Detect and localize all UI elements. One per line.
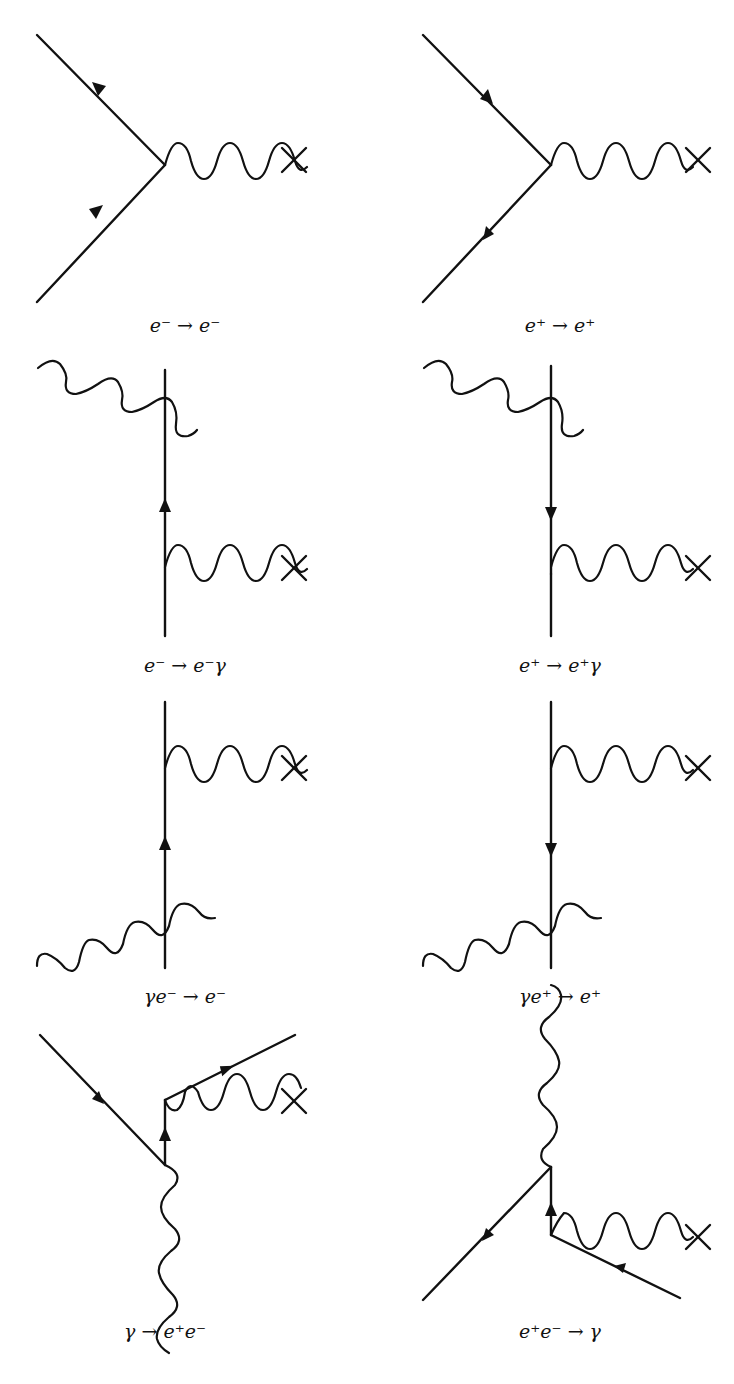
- external-field-cross-icon: [686, 148, 710, 172]
- external-field-cross-icon: [282, 1089, 306, 1113]
- arrow-icon: [482, 1228, 494, 1241]
- external-field-cross-icon: [686, 1225, 710, 1249]
- arrow-icon: [159, 836, 171, 850]
- diagram-caption: γe⁺ → e⁺: [519, 985, 601, 1007]
- diagram-gamma-to-e-plus-e-minus: [40, 1035, 306, 1353]
- external-field-cross-icon: [686, 556, 710, 580]
- diagram-e-minus-to-e-minus-gamma: [38, 361, 307, 636]
- diagram-e-minus-to-e-minus: [37, 35, 307, 302]
- arrow-icon: [159, 1127, 171, 1141]
- diagram-gamma-e-plus-to-e-plus: [423, 702, 710, 971]
- diagram-e-plus-to-e-plus-gamma: [424, 361, 710, 636]
- incoming-photon-line: [423, 904, 601, 971]
- diagram-e-plus-to-e-plus: [423, 35, 710, 302]
- positron-line: [40, 1035, 165, 1165]
- feynman-diagram-grid: [0, 0, 734, 1384]
- arrow-icon: [545, 507, 557, 521]
- photon-line: [165, 143, 307, 179]
- emitted-photon-line: [424, 361, 583, 436]
- diagram-caption: e⁺ → e⁺: [525, 314, 596, 336]
- arrow-icon: [545, 1202, 557, 1216]
- emitted-photon-line: [38, 361, 197, 436]
- arrow-icon: [89, 205, 103, 219]
- diagram-caption: e⁺e⁻ → γ: [519, 1320, 601, 1342]
- external-field-cross-icon: [686, 756, 710, 780]
- diagram-caption: e⁻ → e⁻γ: [144, 654, 226, 676]
- diagram-caption: e⁻ → e⁻: [150, 314, 221, 336]
- diagram-e-plus-e-minus-to-gamma: [423, 985, 710, 1300]
- photon-line: [551, 1213, 693, 1249]
- incoming-electron-line: [37, 165, 165, 302]
- arrow-icon: [545, 843, 557, 857]
- incoming-photon-line: [37, 904, 215, 971]
- photon-line: [551, 545, 693, 581]
- external-field-cross-icon: [282, 148, 306, 172]
- outgoing-electron-line: [37, 35, 165, 165]
- diagram-caption: e⁺ → e⁺γ: [519, 654, 601, 676]
- diagram-caption: γ → e⁺e⁻: [124, 1320, 206, 1342]
- arrow-icon: [92, 1091, 104, 1104]
- outgoing-photon-line: [539, 985, 561, 1167]
- diagram-gamma-e-minus-to-e-minus: [37, 702, 307, 971]
- photon-line: [551, 746, 693, 782]
- arrow-icon: [159, 498, 171, 512]
- diagram-caption: γe⁻ → e⁻: [144, 985, 226, 1007]
- photon-line: [165, 1074, 301, 1110]
- photon-line: [551, 143, 693, 179]
